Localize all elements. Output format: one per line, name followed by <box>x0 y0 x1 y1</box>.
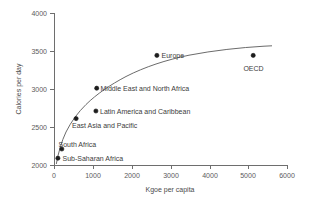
x-tick-label-2000: 2000 <box>124 172 140 179</box>
x-axis-title: Kgoe per capita <box>145 186 194 194</box>
data-label-oecd: OECD <box>243 65 263 72</box>
x-tick-label-0: 0 <box>52 172 56 179</box>
y-tick-label-2500: 2500 <box>31 124 47 131</box>
y-tick-label-3500: 3500 <box>31 48 47 55</box>
y-axis-title: Calories per day <box>15 63 23 114</box>
x-tick-label-6000: 6000 <box>279 172 295 179</box>
data-point-sub-saharan-africa <box>56 156 60 160</box>
x-tick-label-1000: 1000 <box>85 172 101 179</box>
scatter-plot: 2000 2500 3000 3500 4000 0 1000 2000 300… <box>0 0 312 203</box>
data-label-south-africa: South Africa <box>59 141 97 148</box>
y-axis-ticks <box>50 13 54 165</box>
x-tick-label-5000: 5000 <box>240 172 256 179</box>
data-point-latin-america-and-caribbean <box>94 109 98 113</box>
data-point-labels: Sub-Saharan Africa South Africa East Asi… <box>59 52 264 162</box>
data-label-east-asia-and-pacific: East Asia and Pacific <box>72 122 138 129</box>
x-tick-label-3000: 3000 <box>163 172 179 179</box>
data-point-oecd <box>251 53 255 57</box>
data-label-sub-saharan-africa: Sub-Saharan Africa <box>63 155 124 162</box>
y-tick-label-4000: 4000 <box>31 10 47 17</box>
x-axis-ticks <box>54 165 287 169</box>
chart-container: 2000 2500 3000 3500 4000 0 1000 2000 300… <box>0 0 312 203</box>
x-tick-label-4000: 4000 <box>202 172 218 179</box>
data-label-latin-america-and-caribbean: Latin America and Caribbean <box>100 108 190 115</box>
data-label-europe: Europe <box>162 52 185 60</box>
data-point-europe <box>155 53 159 57</box>
data-label-middle-east-and-north-africa: Middle East and North Africa <box>101 85 190 92</box>
y-tick-label-3000: 3000 <box>31 86 47 93</box>
data-point-middle-east-and-north-africa <box>95 86 99 90</box>
data-point-east-asia-and-pacific <box>74 117 78 121</box>
y-tick-label-2000: 2000 <box>31 162 47 169</box>
